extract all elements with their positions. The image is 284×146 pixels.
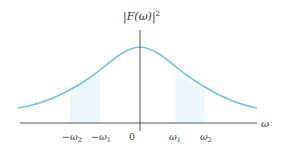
tick-neg-omega2: −ω2 xyxy=(62,131,82,144)
tick-zero: 0 xyxy=(129,131,135,142)
power-spectrum-chart: |F(ω)|2 ω −ω2 −ω1 0 ω1 ω2 xyxy=(0,0,284,146)
tick-omega2: ω2 xyxy=(200,131,212,144)
y-axis-label: |F(ω)|2 xyxy=(123,10,160,24)
spectrum-curve xyxy=(18,47,257,108)
tick-neg-omega1: −ω1 xyxy=(91,131,111,144)
tick-omega1: ω1 xyxy=(169,131,181,144)
shaded-region-positive xyxy=(175,73,205,123)
x-axis-label: ω xyxy=(261,118,269,129)
